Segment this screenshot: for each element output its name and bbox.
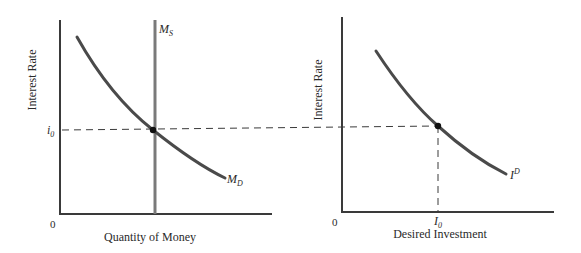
investment-demand-curve <box>376 51 506 174</box>
equilibrium-rate-label: i0 <box>47 123 54 139</box>
left-y-axis-label: Interest Rate <box>25 50 39 111</box>
money-market-equilibrium-point <box>150 127 156 133</box>
investment-equilibrium-point <box>435 123 441 129</box>
left-x-axis-label: Quantity of Money <box>104 230 196 244</box>
money-supply-label: MS <box>158 22 173 38</box>
right-panel-investment: Interest Rate Desired Investment 0 I0 ID <box>311 17 554 241</box>
money-demand-label: MD <box>226 172 243 188</box>
money-demand-curve <box>77 37 225 178</box>
equilibrium-investment-label: I0 <box>433 214 442 230</box>
money-market-investment-diagram: Interest Rate Quantity of Money 0 i0 MS … <box>0 0 581 253</box>
right-y-axis-label: Interest Rate <box>311 60 325 121</box>
equilibrium-rate-dashed-line <box>62 126 438 130</box>
investment-demand-label: ID <box>509 167 520 182</box>
left-origin-label: 0 <box>50 218 56 230</box>
right-origin-label: 0 <box>332 216 338 228</box>
